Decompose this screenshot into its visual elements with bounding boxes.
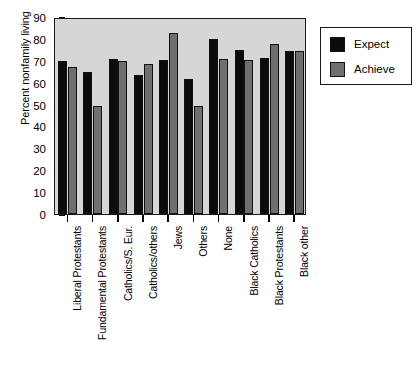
x-tick-label: Others [197, 226, 209, 257]
bar-achieve [118, 61, 127, 214]
y-tick-label: 20 [33, 164, 46, 178]
bar-achieve [169, 33, 178, 214]
bar-expect [260, 58, 269, 215]
bars-layer [55, 19, 305, 214]
bar-achieve [219, 59, 228, 214]
y-tick-label: 40 [33, 120, 46, 134]
x-tick-mark [193, 215, 195, 222]
x-tick-label: Catholics/S. Eur. [122, 226, 134, 301]
legend-item-expect: Expect [330, 35, 389, 53]
y-axis-ticks: 0102030405060708090 [12, 0, 46, 381]
bar-expect [209, 39, 218, 214]
y-tick-label: 30 [33, 142, 46, 156]
legend-item-achieve: Achieve [330, 60, 395, 78]
bar-expect [235, 50, 244, 214]
x-tick-label: Black Protestants [273, 226, 285, 305]
legend-swatch-achieve-icon [330, 62, 345, 77]
legend-swatch-expect-icon [330, 37, 345, 52]
y-tick-label: 90 [33, 11, 46, 25]
bar-expect [285, 51, 294, 214]
bar-expect [159, 60, 168, 214]
bar-achieve [244, 60, 253, 214]
bar-achieve [295, 51, 304, 214]
bar-expect [58, 61, 67, 214]
bar-expect [184, 79, 193, 214]
bar-achieve [270, 44, 279, 214]
bar-chart-figure: Percent nonfamily living 010203040506070… [0, 0, 418, 381]
y-tick-label: 70 [33, 55, 46, 69]
legend-label-expect: Expect [354, 38, 389, 50]
y-tick-label: 50 [33, 99, 46, 113]
x-tick-mark [293, 215, 295, 222]
x-tick-label: Jews [172, 226, 184, 249]
bar-achieve [68, 67, 77, 214]
x-tick-label: Black Catholics [248, 226, 260, 296]
legend-label-achieve: Achieve [354, 63, 395, 75]
y-tick-label: 60 [33, 77, 46, 91]
x-tick-label: None [222, 226, 234, 251]
x-tick-mark [92, 215, 94, 222]
x-tick-label: Fundamental Protestants [96, 226, 108, 340]
y-tick-label: 10 [33, 186, 46, 200]
plot-area [54, 18, 306, 215]
x-tick-mark [167, 215, 169, 222]
bar-expect [134, 75, 143, 214]
bar-achieve [194, 106, 203, 214]
x-tick-mark [67, 215, 69, 222]
x-tick-mark [142, 215, 144, 222]
x-tick-mark [243, 215, 245, 222]
x-tick-mark [117, 215, 119, 222]
x-tick-mark [218, 215, 220, 222]
x-tick-mark [268, 215, 270, 222]
bar-expect [109, 59, 118, 214]
y-tick-label: 80 [33, 33, 46, 47]
x-tick-label: Liberal Protestants [71, 226, 83, 311]
bar-achieve [93, 106, 102, 214]
x-tick-label: Catholics/others [147, 226, 159, 299]
bar-expect [83, 72, 92, 214]
y-tick-label: 0 [40, 208, 46, 222]
chart-legend: Expect Achieve [320, 27, 412, 85]
x-tick-label: Black other [298, 226, 310, 277]
bar-achieve [144, 64, 153, 214]
